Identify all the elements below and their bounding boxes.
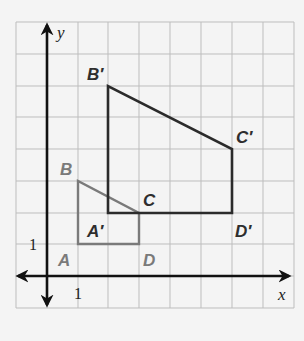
x-tick-label: 1 xyxy=(74,285,82,302)
vertex-label-a-prime: A′ xyxy=(86,222,104,241)
vertex-label-c-prime: C′ xyxy=(236,128,253,147)
vertex-label-d-prime: D′ xyxy=(235,222,252,241)
y-tick-label: 1 xyxy=(29,236,37,253)
coordinate-plane: y x 1 1 A B C D A′ B′ C′ D′ xyxy=(0,0,304,341)
vertex-label-c: C xyxy=(143,191,156,210)
y-axis-label: y xyxy=(55,23,65,42)
vertex-label-d: D xyxy=(143,251,155,270)
vertex-label-b: B xyxy=(60,160,72,179)
x-axis-label: x xyxy=(277,285,286,304)
vertex-label-b-prime: B′ xyxy=(87,65,104,84)
vertex-label-a: A xyxy=(57,251,70,270)
